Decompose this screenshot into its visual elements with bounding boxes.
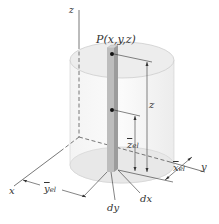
x-axis-label: x [9, 186, 15, 196]
x-el-label: xel [173, 163, 185, 173]
point-p [110, 52, 114, 56]
centroid-point [110, 108, 114, 112]
y-el-label: yel [44, 184, 56, 194]
z-axis-label: z [69, 6, 74, 15]
x-axis [14, 137, 79, 186]
point-p-label: P(x,y,z) [96, 34, 136, 45]
z-height-label: z [149, 100, 154, 110]
cylinder [70, 42, 174, 183]
y-axis-label: y [201, 162, 207, 172]
diagram-canvas: z x y P(x,y,z) z zel xel yel dy dx [0, 0, 219, 224]
z-el-label: zel [127, 140, 139, 150]
dx-label: dx [140, 194, 152, 204]
dy-label: dy [107, 203, 119, 213]
